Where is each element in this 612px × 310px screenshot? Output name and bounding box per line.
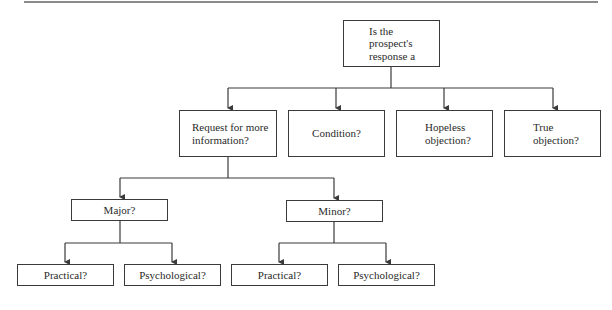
node-major-psychological: Psychological? [124,264,221,286]
node-label: Psychological? [353,269,420,282]
node-label: Minor? [318,205,350,218]
node-true-objection: True objection? [504,110,601,157]
node-label: Practical? [44,269,87,282]
node-label: Hopeless objection? [425,121,471,146]
node-minor: Minor? [286,200,383,222]
node-hopeless-objection: Hopeless objection? [396,110,493,157]
node-request-for-more-information: Request for more information? [179,110,277,157]
node-label: Request for more information? [192,121,268,146]
node-label: Major? [104,204,136,217]
node-minor-psychological: Psychological? [338,264,435,286]
node-label: True objection? [533,121,579,146]
node-root-question: Is the prospect's response a [343,20,440,67]
node-major: Major? [71,199,168,221]
node-condition: Condition? [288,110,385,157]
node-label: Is the prospect's response a [369,25,415,63]
node-label: Psychological? [139,269,206,282]
node-minor-practical: Practical? [231,264,328,286]
node-label: Condition? [312,127,361,140]
node-label: Practical? [258,269,301,282]
node-major-practical: Practical? [17,264,114,286]
